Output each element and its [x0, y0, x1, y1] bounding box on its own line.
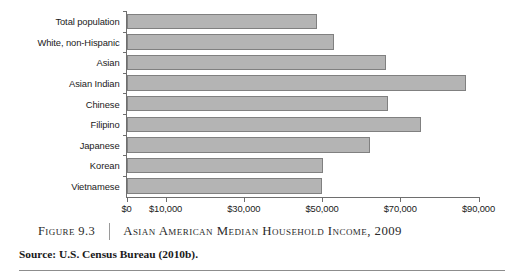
y-axis-tick [123, 52, 127, 53]
x-axis-tick [479, 197, 480, 202]
x-axis-tick-label: $30,000 [227, 203, 260, 214]
category-label: White, non-Hispanic [38, 36, 120, 47]
chart-row: Korean [127, 155, 479, 176]
caption-block: Figure 9.3 Asian American Median Househo… [0, 218, 517, 278]
chart-row: Chinese [127, 93, 479, 114]
y-axis-tick [123, 73, 127, 74]
figure-title: Asian American Median Household Income, … [123, 224, 402, 239]
bar [127, 55, 387, 70]
bar [127, 158, 323, 173]
chart-row: Japanese [127, 135, 479, 156]
y-axis-tick [123, 155, 127, 156]
x-axis-tick [166, 197, 167, 202]
bar [127, 96, 388, 111]
bar [127, 178, 323, 193]
x-axis-tick [322, 197, 323, 202]
x-axis-tick-label: $50,000 [305, 203, 338, 214]
category-label: Korean [90, 160, 120, 171]
bar-chart: Total populationWhite, non-HispanicAsian… [0, 0, 517, 215]
y-axis-tick [123, 114, 127, 115]
plot-area: Total populationWhite, non-HispanicAsian… [127, 11, 479, 197]
y-axis-tick [123, 93, 127, 94]
figure-number: Figure 9.3 [38, 224, 95, 239]
source-note: Source: U.S. Census Bureau (2010b). [19, 248, 198, 260]
category-label: Asian Indian [69, 78, 119, 89]
category-label: Total population [55, 16, 119, 27]
category-label: Japanese [80, 139, 120, 150]
figure-container: Total populationWhite, non-HispanicAsian… [0, 0, 517, 278]
x-axis-tick-label: $0 [121, 203, 131, 214]
caption-heading: Figure 9.3 Asian American Median Househo… [38, 221, 402, 242]
bar [127, 34, 334, 49]
y-axis-tick [123, 11, 127, 12]
y-axis-tick [123, 32, 127, 33]
x-axis-tick-label: $90,000 [462, 203, 495, 214]
caption-divider [109, 223, 110, 240]
chart-row: Vietnamese [127, 176, 479, 197]
x-axis-line [126, 197, 479, 198]
chart-row: Total population [127, 11, 479, 32]
y-axis-tick [123, 135, 127, 136]
y-axis-tick [123, 176, 127, 177]
category-label: Chinese [86, 98, 120, 109]
bar [127, 75, 466, 90]
category-label: Vietnamese [71, 181, 119, 192]
x-axis-tick-label: $10,000 [149, 203, 182, 214]
bar [127, 117, 422, 132]
category-label: Filipino [91, 119, 120, 130]
chart-row: White, non-Hispanic [127, 32, 479, 53]
bar [127, 14, 317, 29]
chart-row: Asian [127, 52, 479, 73]
bottom-rule [19, 270, 505, 271]
x-axis-tick [127, 197, 128, 202]
x-axis-tick-label: $70,000 [384, 203, 417, 214]
chart-row: Asian Indian [127, 73, 479, 94]
category-label: Asian [97, 57, 120, 68]
x-axis-tick [400, 197, 401, 202]
bar [127, 137, 370, 152]
x-axis-tick [244, 197, 245, 202]
chart-row: Filipino [127, 114, 479, 135]
